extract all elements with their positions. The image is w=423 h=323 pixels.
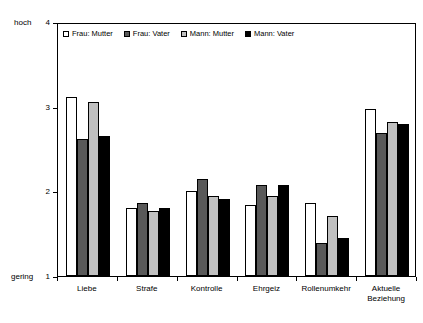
legend-entry-0[interactable]: Frau: Mutter: [63, 29, 113, 38]
category-label-5: Aktuelle Beziehung: [346, 284, 423, 304]
bar-2-3[interactable]: [219, 199, 230, 276]
bar-4-1[interactable]: [316, 243, 327, 276]
bar-4-3[interactable]: [338, 238, 349, 276]
bar-group-2: [186, 22, 230, 276]
bar-3-1[interactable]: [256, 185, 267, 276]
bar-group-3: [245, 22, 289, 276]
x-tick-mark-5: [356, 277, 357, 281]
bar-4-2[interactable]: [327, 216, 338, 276]
legend-entry-3[interactable]: Mann: Vater: [245, 29, 294, 38]
bar-4-0[interactable]: [305, 203, 316, 276]
x-tick-mark-4: [296, 277, 297, 281]
bar-group-0: [66, 22, 110, 276]
x-tick-mark-6: [416, 277, 417, 281]
legend-entry-1[interactable]: Frau: Vater: [124, 29, 170, 38]
legend-swatch-icon-2: [181, 31, 187, 37]
bar-group-1: [126, 22, 170, 276]
bar-group-4: [305, 22, 349, 276]
bar-0-1[interactable]: [77, 139, 88, 276]
bar-1-0[interactable]: [126, 208, 137, 276]
y-tick-label-2: 2: [38, 187, 50, 197]
x-tick-mark-3: [237, 277, 238, 281]
legend-label-0: Frau: Mutter: [72, 29, 113, 38]
bar-0-2[interactable]: [88, 102, 99, 276]
y-tick-label-3: 3: [38, 103, 50, 113]
y-tick-label-1: 1: [38, 272, 50, 282]
legend-label-1: Frau: Vater: [133, 29, 170, 38]
plot-area: [58, 24, 415, 276]
bar-3-2[interactable]: [267, 196, 278, 276]
legend-swatch-icon-3: [245, 31, 251, 37]
bar-0-0[interactable]: [66, 97, 77, 276]
x-tick-mark-0: [57, 277, 58, 281]
x-tick-mark-2: [177, 277, 178, 281]
legend-label-2: Mann: Mutter: [190, 29, 234, 38]
bar-3-3[interactable]: [278, 185, 289, 276]
bar-2-1[interactable]: [197, 179, 208, 276]
bar-1-1[interactable]: [137, 203, 148, 276]
x-tick-mark-1: [117, 277, 118, 281]
y-axis-low-caption: gering: [11, 272, 33, 282]
bar-0-3[interactable]: [99, 136, 110, 276]
bar-group-5: [365, 22, 409, 276]
bar-2-2[interactable]: [208, 196, 219, 276]
bar-1-2[interactable]: [148, 211, 159, 276]
bar-chart: hoch gering 1234 Frau: MutterFrau: Vater…: [0, 0, 423, 323]
bar-5-1[interactable]: [376, 133, 387, 276]
y-tick-label-4: 4: [38, 18, 50, 28]
legend-swatch-icon-0: [63, 31, 69, 37]
bar-5-2[interactable]: [387, 122, 398, 276]
bar-1-3[interactable]: [159, 208, 170, 276]
chart-legend: Frau: MutterFrau: VaterMann: MutterMann:…: [63, 29, 294, 38]
legend-entry-2[interactable]: Mann: Mutter: [181, 29, 234, 38]
bar-3-0[interactable]: [245, 205, 256, 276]
y-axis-high-caption: hoch: [14, 18, 31, 28]
legend-swatch-icon-1: [124, 31, 130, 37]
plot-frame: [57, 23, 416, 277]
bar-2-0[interactable]: [186, 191, 197, 276]
bar-5-0[interactable]: [365, 109, 376, 276]
legend-label-3: Mann: Vater: [254, 29, 294, 38]
bar-5-3[interactable]: [398, 124, 409, 276]
